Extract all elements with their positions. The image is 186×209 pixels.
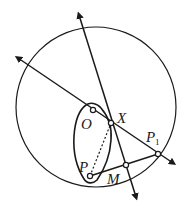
point-x [108, 120, 113, 125]
point-p [87, 173, 92, 178]
point-m [123, 162, 128, 167]
label-x: X [116, 110, 127, 126]
label-p1: P [145, 129, 155, 145]
point-o [90, 107, 95, 112]
point-p1 [155, 151, 160, 156]
geometry-diagram: O X P 1 P M [0, 0, 186, 209]
outer-circle [16, 27, 176, 187]
label-p1-subscript: 1 [155, 137, 160, 147]
dashed-segment-p-x [90, 123, 111, 176]
label-m: M [106, 171, 121, 187]
label-o: O [81, 116, 92, 132]
label-p: P [78, 159, 88, 175]
